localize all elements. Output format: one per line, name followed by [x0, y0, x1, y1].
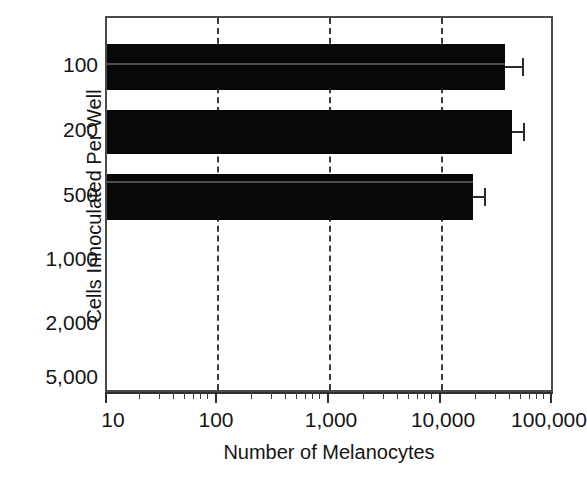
x-tick-label-10000: 10,000 [411, 408, 475, 432]
x-major-tick-1000 [327, 392, 329, 403]
x-minor-tick [173, 392, 174, 399]
x-minor-tick [207, 392, 208, 399]
x-tick-label-group: 10 100 1,000 10,000 100,000 [0, 408, 577, 438]
x-minor-tick [305, 392, 306, 399]
x-major-tick-10 [105, 392, 107, 403]
x-minor-tick [139, 392, 140, 399]
y-tick-label-5000: 5,000 [0, 365, 98, 389]
x-axis [105, 392, 553, 406]
y-tick-label-1000: 1,000 [0, 247, 98, 271]
x-minor-tick [285, 392, 286, 399]
y-tick-label-2000: 2,000 [0, 311, 98, 335]
x-minor-tick [397, 392, 398, 399]
error-bar-200-cap [523, 123, 525, 141]
x-minor-tick [520, 392, 521, 399]
x-minor-tick [431, 392, 432, 399]
x-minor-tick [383, 392, 384, 399]
x-minor-tick [408, 392, 409, 399]
y-tick-label-500: 500 [0, 183, 98, 207]
x-major-tick-100000 [550, 392, 552, 403]
x-tick-label-1000: 1,000 [305, 408, 358, 432]
x-minor-tick [424, 392, 425, 399]
x-axis-title: Number of Melanocytes [105, 441, 553, 464]
x-minor-tick [529, 392, 530, 399]
bar-100 [107, 44, 505, 90]
x-minor-tick [159, 392, 160, 399]
x-minor-tick [509, 392, 510, 399]
x-tick-label-10: 10 [101, 408, 124, 432]
bar-100-highlight [107, 63, 505, 65]
x-minor-tick [536, 392, 537, 399]
x-minor-tick [200, 392, 201, 399]
y-tick-label-200: 200 [0, 118, 98, 142]
x-minor-tick [319, 392, 320, 399]
x-minor-tick [475, 392, 476, 399]
plot-area [105, 16, 553, 392]
x-minor-tick [184, 392, 185, 399]
bar-500-highlight [107, 181, 473, 183]
x-minor-tick [363, 392, 364, 399]
y-tick-label-100: 100 [0, 53, 98, 77]
x-major-tick-100 [215, 392, 217, 403]
bar-200 [107, 110, 512, 154]
x-minor-tick [271, 392, 272, 399]
x-minor-tick [417, 392, 418, 399]
error-bar-100-line [505, 66, 523, 68]
x-minor-tick [296, 392, 297, 399]
x-minor-tick [543, 392, 544, 399]
x-tick-label-100000: 100,000 [511, 408, 587, 432]
x-tick-label-100: 100 [198, 408, 233, 432]
x-minor-tick [495, 392, 496, 399]
x-minor-tick [312, 392, 313, 399]
x-major-tick-10000 [439, 392, 441, 403]
x-minor-tick [193, 392, 194, 399]
error-bar-100-cap [522, 58, 524, 76]
x-minor-tick [251, 392, 252, 399]
error-bar-500-cap [484, 188, 486, 206]
